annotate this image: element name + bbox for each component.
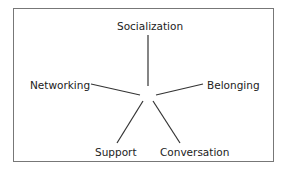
node-belonging: Belonging bbox=[207, 79, 260, 91]
line-conversation bbox=[153, 101, 180, 143]
line-support bbox=[117, 101, 143, 143]
node-support: Support bbox=[95, 146, 137, 158]
node-conversation: Conversation bbox=[160, 146, 229, 158]
node-networking: Networking bbox=[30, 79, 90, 91]
node-socialization: Socialization bbox=[117, 20, 183, 32]
line-networking bbox=[91, 84, 140, 95]
line-belonging bbox=[156, 84, 203, 95]
